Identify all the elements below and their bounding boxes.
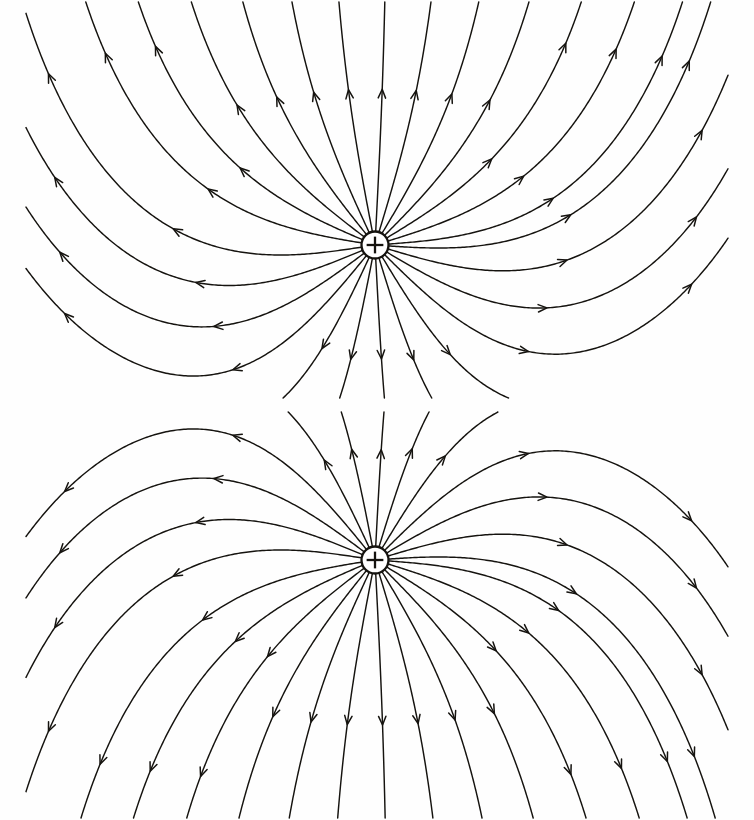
field-line xyxy=(26,207,364,327)
field-line xyxy=(288,412,369,548)
field-line xyxy=(387,497,728,636)
field-line xyxy=(387,169,728,308)
field-arrowhead xyxy=(544,198,553,206)
field-lines-group-bottom xyxy=(26,412,728,818)
field-line xyxy=(388,564,639,818)
arrowheads-group-bottom xyxy=(48,434,702,776)
field-line xyxy=(382,572,482,818)
point-charge-bottom xyxy=(362,547,389,574)
field-line xyxy=(292,2,369,233)
field-line xyxy=(388,75,728,271)
field-line xyxy=(26,128,363,286)
field-line xyxy=(243,2,367,235)
field-line xyxy=(134,565,363,818)
field-line xyxy=(26,13,362,255)
field-line xyxy=(382,2,479,233)
point-charge-top xyxy=(362,232,389,259)
field-arrowhead xyxy=(237,105,245,114)
figure-positive-charge-upward-field xyxy=(0,0,754,400)
field-line xyxy=(388,557,715,818)
field-line xyxy=(376,573,385,818)
field-line xyxy=(289,572,369,818)
field-line xyxy=(388,2,710,248)
field-line xyxy=(81,562,362,818)
field-line xyxy=(382,412,498,548)
field-line xyxy=(379,573,433,818)
field-line xyxy=(138,2,362,240)
field-arrowhead xyxy=(324,460,332,469)
field-line xyxy=(388,2,682,244)
field-lines-group-top xyxy=(26,2,728,398)
field-line xyxy=(338,573,373,818)
field-line xyxy=(187,568,364,818)
field-line xyxy=(379,258,432,398)
field-line xyxy=(283,257,369,398)
field-line xyxy=(26,478,364,598)
field-line xyxy=(191,2,364,237)
field-line xyxy=(239,570,367,818)
field-arrowhead xyxy=(322,339,330,348)
arrowheads-group-top xyxy=(48,43,702,370)
field-line xyxy=(388,2,634,241)
field-line xyxy=(376,258,385,398)
field-line xyxy=(26,550,362,792)
field-line xyxy=(376,412,384,547)
figure-positive-charge-downward-field xyxy=(0,410,754,820)
field-line xyxy=(340,258,373,398)
field-line-canvas-top xyxy=(0,0,754,400)
field-line xyxy=(339,2,372,232)
field-line xyxy=(341,412,372,547)
field-line xyxy=(387,567,586,818)
field-arrowhead xyxy=(567,586,576,594)
diagram-page xyxy=(0,0,754,820)
field-line xyxy=(379,412,429,547)
field-line xyxy=(385,2,529,235)
field-line xyxy=(385,570,534,818)
field-line xyxy=(26,520,363,678)
field-line xyxy=(86,2,362,243)
field-line-canvas-bottom xyxy=(0,410,754,820)
field-line xyxy=(379,2,431,232)
field-line xyxy=(388,561,687,818)
field-line xyxy=(376,2,385,232)
field-line xyxy=(388,534,728,730)
